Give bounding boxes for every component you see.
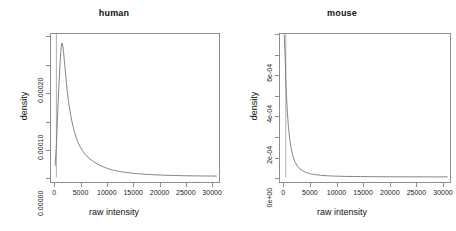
y-tick-mark bbox=[46, 122, 50, 123]
x-tick-label: 15000 bbox=[353, 189, 372, 197]
x-tick-mark bbox=[363, 183, 364, 187]
x-axis-title-mouse: raw intensity bbox=[228, 207, 456, 217]
y-tick-mark bbox=[275, 137, 279, 138]
x-tick-mark bbox=[160, 183, 161, 187]
y-tick-mark bbox=[275, 75, 279, 76]
y-tick-label: 4e-04 bbox=[266, 105, 273, 123]
x-tick-label: 25000 bbox=[176, 189, 195, 197]
density-curve-human bbox=[51, 34, 219, 182]
y-axis-title-mouse: density bbox=[249, 76, 259, 136]
x-tick-label: 10000 bbox=[327, 189, 346, 197]
x-tick-mark bbox=[186, 183, 187, 187]
x-tick-mark bbox=[283, 183, 284, 187]
x-tick-mark bbox=[337, 183, 338, 187]
y-tick-label: 0.00010 bbox=[37, 134, 44, 159]
x-axis-title-human: raw intensity bbox=[0, 207, 228, 217]
y-tick-label: 2e-04 bbox=[266, 146, 273, 164]
x-tick-mark bbox=[54, 183, 55, 187]
x-tick-label: 5000 bbox=[73, 189, 89, 197]
x-tick-label: 25000 bbox=[407, 189, 426, 197]
plot-area-human bbox=[50, 33, 220, 183]
x-tick-label: 30000 bbox=[202, 189, 221, 197]
x-tick-mark bbox=[107, 183, 108, 187]
panel-title-mouse: mouse bbox=[228, 8, 456, 18]
plot-area-mouse bbox=[279, 33, 451, 183]
x-tick-mark bbox=[443, 183, 444, 187]
x-tick-mark bbox=[81, 183, 82, 187]
y-tick-mark bbox=[275, 158, 279, 159]
x-tick-mark bbox=[390, 183, 391, 187]
x-tick-label: 0 bbox=[281, 189, 285, 197]
x-tick-label: 20000 bbox=[150, 189, 169, 197]
density-plot-figure: human 0.000000.000100.00020 050001000015… bbox=[0, 0, 456, 231]
x-tick-label: 30000 bbox=[433, 189, 452, 197]
y-tick-label: 0e+00 bbox=[266, 188, 273, 208]
y-tick-mark bbox=[46, 150, 50, 151]
y-tick-mark bbox=[275, 116, 279, 117]
density-curve-mouse bbox=[280, 34, 450, 182]
y-tick-mark bbox=[46, 36, 50, 37]
y-tick-label: 6e-04 bbox=[266, 64, 273, 82]
y-tick-mark bbox=[275, 178, 279, 179]
panel-mouse: mouse 0e+002e-044e-046e-04 0500010000150… bbox=[228, 0, 456, 231]
x-tick-mark bbox=[310, 183, 311, 187]
y-tick-mark bbox=[46, 178, 50, 179]
x-tick-label: 10000 bbox=[97, 189, 116, 197]
x-tick-mark bbox=[212, 183, 213, 187]
panel-title-human: human bbox=[0, 8, 228, 18]
y-tick-mark bbox=[46, 93, 50, 94]
x-tick-label: 5000 bbox=[302, 189, 318, 197]
y-tick-mark bbox=[275, 96, 279, 97]
y-tick-mark bbox=[275, 34, 279, 35]
x-tick-label: 0 bbox=[52, 189, 56, 197]
y-tick-mark bbox=[275, 55, 279, 56]
y-tick-mark bbox=[46, 65, 50, 66]
x-tick-label: 20000 bbox=[380, 189, 399, 197]
x-tick-label: 15000 bbox=[123, 189, 142, 197]
y-tick-label: 0.00020 bbox=[37, 77, 44, 102]
x-tick-mark bbox=[133, 183, 134, 187]
x-tick-mark bbox=[416, 183, 417, 187]
y-axis-title-human: density bbox=[19, 76, 29, 136]
panel-human: human 0.000000.000100.00020 050001000015… bbox=[0, 0, 228, 231]
